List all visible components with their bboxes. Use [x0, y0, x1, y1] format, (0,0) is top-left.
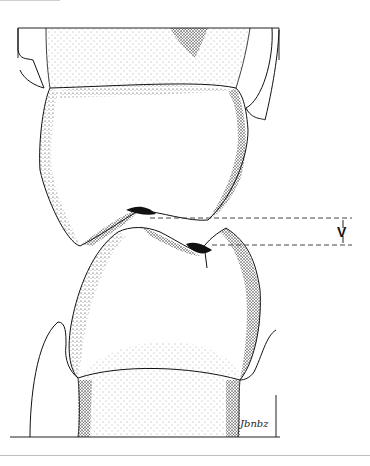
upper-root [46, 28, 252, 88]
measurement-label-v: V [337, 224, 346, 240]
measurement-lines [150, 218, 352, 245]
artist-signature: Jbnbz [240, 418, 269, 429]
bottom-rule [0, 455, 370, 456]
upper-crown [40, 84, 248, 246]
upper-gingiva-right [246, 28, 279, 120]
upper-gingiva-left [18, 28, 44, 88]
dental-illustration [0, 0, 370, 466]
lower-root [76, 368, 240, 437]
